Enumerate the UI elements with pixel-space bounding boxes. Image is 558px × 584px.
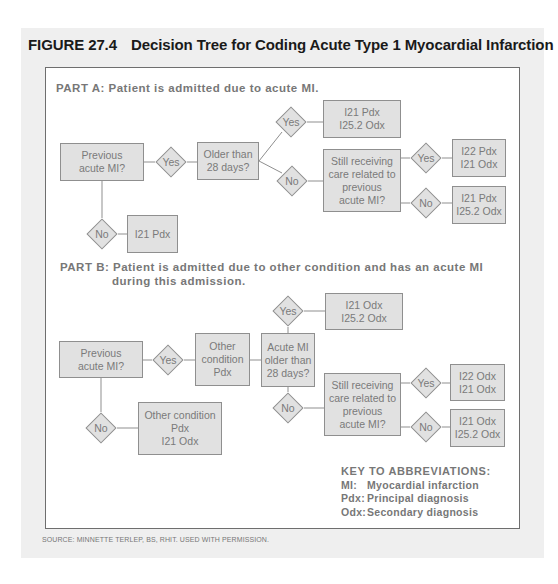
part-a-yes1-decision: Yes	[155, 146, 187, 178]
part-b-previous-mi-node: Previous acute MI?	[59, 341, 143, 378]
decision-label: Yes	[410, 142, 442, 174]
key-meaning: Principal diagnosis	[367, 492, 469, 504]
node-text: Previous	[82, 149, 123, 162]
part-a-still-receiving-node: Still receiving care related to previous…	[323, 149, 401, 212]
part-a-no3-result: I21 Pdx I25.2 Odx	[452, 186, 506, 224]
node-text: I21 Odx	[459, 383, 496, 396]
node-text: acute MI?	[79, 162, 125, 175]
key-abbr: MI:	[341, 479, 367, 493]
part-a-yes3-decision: Yes	[410, 142, 442, 174]
node-text: I22 Odx	[459, 370, 496, 383]
node-text: I21 Odx	[461, 158, 498, 171]
part-b-acute-older-node: Acute MI older than 28 days?	[261, 333, 315, 387]
node-text: Pdx	[213, 366, 231, 379]
part-b-yes1-decision: Yes	[152, 344, 184, 376]
part-a-older-28-node: Older than 28 days?	[197, 142, 259, 180]
node-text: I21 Odx	[346, 299, 383, 312]
decision-label: No	[86, 218, 118, 250]
part-b-no3-result: I21 Odx I25.2 Odx	[450, 409, 505, 447]
key-meaning: Myocardial infarction	[367, 479, 479, 491]
node-text: I25.2 Odx	[456, 205, 502, 218]
node-text: I21 Pdx	[461, 192, 497, 205]
decision-label: No	[272, 392, 304, 424]
node-text: Previous	[81, 347, 122, 360]
part-b-still-receiving-node: Still receiving care related to previous…	[324, 373, 401, 436]
key-meaning: Secondary diagnosis	[367, 506, 478, 518]
node-text: Older than	[203, 148, 252, 161]
decision-label: Yes	[275, 106, 307, 138]
node-text: 28 days?	[207, 161, 250, 174]
part-b-yes2-result: I21 Odx I25.2 Odx	[325, 293, 403, 330]
node-text: I22 Pdx	[461, 145, 497, 158]
node-text: I21 Pdx	[135, 228, 171, 241]
part-b-no3-decision: No	[410, 411, 442, 443]
node-text: Pdx	[171, 422, 189, 435]
part-b-no1-decision: No	[85, 412, 117, 444]
part-b-no1-result: Other condition Pdx I21 Odx	[138, 402, 222, 455]
part-b-no2-decision: No	[272, 392, 304, 424]
decision-label: Yes	[152, 344, 184, 376]
part-a-previous-mi-node: Previous acute MI?	[60, 143, 144, 181]
part-b-yes2-decision: Yes	[272, 295, 304, 327]
part-b-label-line2: during this admission.	[112, 274, 246, 288]
key-row: Odx:Secondary diagnosis	[341, 506, 491, 520]
part-b-other-condition-pdx-node: Other condition Pdx	[195, 333, 250, 386]
node-text: 28 days?	[267, 367, 310, 380]
node-text: I25.2 Odx	[339, 119, 385, 132]
part-a-yes3-result: I22 Pdx I21 Odx	[452, 139, 506, 177]
node-text: I21 Odx	[459, 415, 496, 428]
node-text: Still receiving	[331, 155, 393, 168]
node-text: older than	[265, 354, 312, 367]
part-a-no1-decision: No	[86, 218, 118, 250]
key-abbr: Pdx:	[341, 492, 367, 506]
node-text: previous	[342, 181, 382, 194]
node-text: acute MI?	[339, 418, 385, 431]
decision-label: Yes	[410, 367, 442, 399]
node-text: Other condition	[144, 409, 215, 422]
part-b-yes3-result: I22 Odx I21 Odx	[450, 364, 505, 401]
decision-label: Yes	[272, 295, 304, 327]
key-header: KEY TO ABBREVIATIONS:	[341, 465, 491, 479]
source-credit: SOURCE: MINNETTE TERLEP, BS, RHIT. USED …	[42, 536, 269, 543]
node-text: previous	[343, 405, 383, 418]
part-a-yes2-result: I21 Pdx I25.2 Odx	[323, 100, 401, 138]
node-text: I25.2 Odx	[341, 312, 387, 325]
decision-label: No	[276, 165, 308, 197]
key-row: Pdx:Principal diagnosis	[341, 492, 491, 506]
node-text: I21 Pdx	[344, 106, 380, 119]
node-text: care related to	[328, 168, 395, 181]
part-b-label-line1: PART B: Patient is admitted due to other…	[60, 260, 483, 274]
decision-label: Yes	[155, 146, 187, 178]
node-text: I25.2 Odx	[455, 428, 501, 441]
decision-label: No	[410, 411, 442, 443]
part-a-yes2-decision: Yes	[275, 106, 307, 138]
node-text: acute MI?	[78, 360, 124, 373]
part-b-yes3-decision: Yes	[410, 367, 442, 399]
node-text: Other	[209, 340, 235, 353]
abbreviation-key: KEY TO ABBREVIATIONS: MI:Myocardial infa…	[341, 465, 491, 519]
key-row: MI:Myocardial infarction	[341, 479, 491, 493]
decision-label: No	[410, 187, 442, 219]
node-text: I21 Odx	[162, 435, 199, 448]
part-a-no2-decision: No	[276, 165, 308, 197]
part-a-label: PART A: Patient is admitted due to acute…	[56, 81, 319, 95]
key-abbr: Odx:	[341, 506, 367, 520]
part-a-i21-pdx-result: I21 Pdx	[127, 215, 178, 253]
node-text: condition	[201, 353, 243, 366]
part-a-no3-decision: No	[410, 187, 442, 219]
node-text: Still receiving	[332, 379, 394, 392]
decision-label: No	[85, 412, 117, 444]
node-text: Acute MI	[267, 341, 308, 354]
node-text: acute MI?	[339, 194, 385, 207]
node-text: care related to	[329, 392, 396, 405]
